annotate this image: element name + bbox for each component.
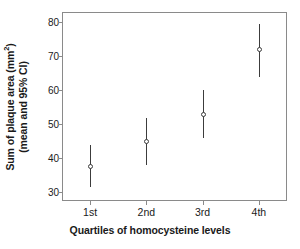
x-tick-mark [259, 201, 260, 205]
y-tick-mark [58, 158, 62, 159]
x-tick-label-3rd: 3rd [181, 206, 225, 218]
y-tick-mark [58, 56, 62, 57]
data-point-2nd [144, 139, 149, 144]
y-tick-mark [58, 22, 62, 23]
x-tick-mark [146, 201, 147, 205]
y-tick-mark [58, 90, 62, 91]
y-axis-title-line1-end: ) [4, 43, 16, 46]
x-axis-title: Quartiles of homocysteine levels [0, 224, 300, 236]
y-axis-title-superscript: 2 [3, 46, 12, 50]
x-tick-label-4th: 4th [237, 206, 281, 218]
y-tick-mark [58, 124, 62, 125]
data-point-3rd [201, 112, 206, 117]
y-axis-title: Sum of plaque area (mm2) (mean and 95% C… [0, 0, 34, 213]
x-tick-label-1st: 1st [68, 206, 112, 218]
x-tick-mark [90, 201, 91, 205]
y-axis-title-line1: Sum of plaque area (mm [4, 50, 16, 170]
y-axis-title-text: Sum of plaque area (mm2) (mean and 95% C… [4, 43, 30, 170]
y-tick-mark [58, 192, 62, 193]
data-point-4th [257, 47, 262, 52]
x-tick-label-2nd: 2nd [124, 206, 168, 218]
y-axis-title-line2: (mean and 95% CI) [17, 43, 30, 170]
x-tick-mark [203, 201, 204, 205]
chart-figure: Sum of plaque area (mm2) (mean and 95% C… [0, 0, 300, 249]
plot-area [62, 12, 287, 201]
